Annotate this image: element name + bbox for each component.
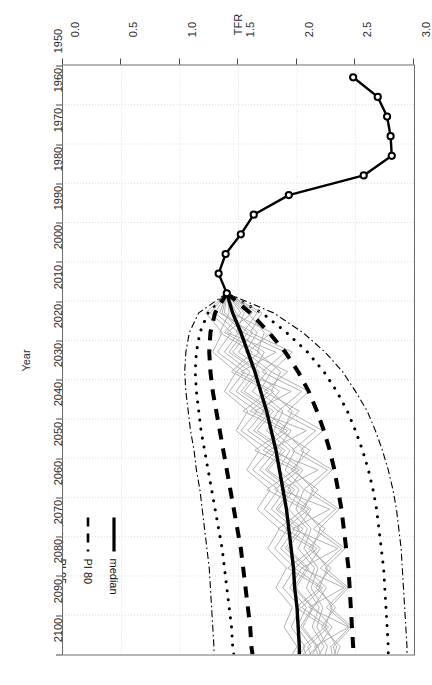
y-axis-tick-label: 2.5: [362, 21, 374, 36]
x-axis-tick: [56, 261, 62, 262]
x-axis-tick-label: 2000: [52, 225, 64, 249]
x-axis-tick-label: 2060: [52, 460, 64, 484]
x-axis-tick: [56, 418, 62, 419]
x-axis-tick: [56, 301, 62, 302]
legend-label: PI 80: [82, 558, 94, 584]
y-axis-tick-label: 0.5: [128, 21, 140, 36]
x-axis-tick-label: 1990: [52, 185, 64, 209]
x-axis-tick-label: 2040: [52, 382, 64, 406]
x-axis-tick-label: 2100: [52, 617, 64, 641]
x-axis-tick: [56, 654, 62, 655]
y-axis-tick-label: 2.0: [303, 21, 315, 36]
x-axis-tick: [56, 497, 62, 498]
observed-tfr-point: [251, 211, 257, 217]
plot-area: medianPI 80PI 95+/- 0.5 childobserved TF…: [62, 64, 415, 655]
y-axis-tick: [238, 58, 239, 64]
legend-layer: medianPI 80PI 95+/- 0.5 childobserved TF…: [63, 517, 120, 628]
y-axis-tick: [179, 58, 180, 64]
pi95-band-layer: [195, 293, 388, 654]
y-axis-tick: [355, 58, 356, 64]
x-axis-tick: [56, 340, 62, 341]
observed-tfr-point: [388, 133, 394, 139]
x-axis-tick-label: 1960: [52, 68, 64, 92]
y-axis-tick: [121, 58, 122, 64]
observed-tfr-point: [375, 93, 381, 99]
x-axis-tick: [56, 144, 62, 145]
observed-tfr-layer: [216, 74, 395, 296]
trajectory-line: [224, 293, 328, 654]
x-axis-tick-label: 2010: [52, 264, 64, 288]
observed-tfr-point: [223, 250, 229, 256]
plot-device: medianPI 80PI 95+/- 0.5 childobserved TF…: [0, 0, 432, 685]
x-axis-tick-label: 2050: [52, 421, 64, 445]
legend-label: median: [108, 558, 120, 594]
trajectory-line: [206, 293, 297, 654]
x-axis-tick: [56, 65, 62, 66]
x-axis-tick-label: 1980: [52, 146, 64, 170]
y-axis-title: TFR: [233, 13, 245, 34]
x-axis-tick: [56, 536, 62, 537]
trajectory-line: [210, 293, 305, 654]
observed-tfr-point: [389, 152, 395, 158]
x-axis-tick: [56, 458, 62, 459]
x-axis-tick-label: 1950: [52, 28, 64, 52]
x-axis-tick-label: 2080: [52, 539, 64, 563]
x-axis-tick: [56, 615, 62, 616]
x-axis-tick: [56, 183, 62, 184]
observed-tfr-point: [216, 270, 222, 276]
y-axis-tick-label: 1.0: [186, 21, 198, 36]
y-axis-tick: [296, 58, 297, 64]
x-axis-tick: [56, 575, 62, 576]
x-axis-tick: [56, 379, 62, 380]
observed-tfr-point: [286, 191, 292, 197]
observed-tfr-point: [361, 172, 367, 178]
observed-tfr-point: [224, 290, 230, 296]
y-axis-tick: [62, 58, 63, 64]
y-axis-tick-label: 1.5: [245, 21, 257, 36]
y-axis-tick-label: 0.0: [69, 21, 81, 36]
x-axis-tick: [56, 104, 62, 105]
chart-canvas: medianPI 80PI 95+/- 0.5 childobserved TF…: [63, 65, 414, 654]
x-axis-tick-label: 2070: [52, 499, 64, 523]
x-axis-tick-label: 2030: [52, 342, 64, 366]
series--0-5-child-lower: [185, 293, 227, 654]
y-axis-tick: [413, 58, 414, 64]
y-axis-tick-label: 3.0: [420, 21, 432, 36]
x-axis-tick-label: 2090: [52, 578, 64, 602]
x-axis-title: Year: [20, 348, 32, 370]
x-axis-tick: [56, 222, 62, 223]
x-axis-tick-label: 2020: [52, 303, 64, 327]
observed-tfr-point: [238, 231, 244, 237]
x-axis-tick-label: 1970: [52, 107, 64, 131]
observed-tfr-point: [384, 113, 390, 119]
observed-tfr-line: [219, 77, 392, 293]
observed-tfr-point: [350, 74, 356, 80]
